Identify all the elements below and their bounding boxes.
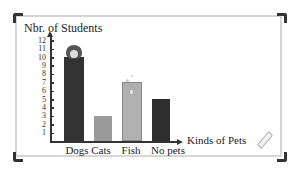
y-tick-label: 6	[32, 87, 46, 95]
bar-cats	[94, 116, 112, 141]
y-tick-label: 12	[32, 37, 46, 45]
y-axis	[50, 34, 52, 142]
x-tick-label: Fish	[111, 144, 151, 156]
y-tick	[50, 82, 54, 84]
y-tick	[50, 65, 54, 67]
y-tick	[50, 49, 54, 51]
bar-dogs	[64, 57, 84, 141]
bubble-icon	[126, 79, 129, 82]
fish-icon	[130, 90, 133, 94]
y-tick	[50, 91, 54, 93]
x-axis	[50, 141, 178, 143]
y-tick-label: 11	[32, 45, 46, 53]
x-tick-label: No pets	[148, 144, 188, 156]
y-tick-label: 7	[32, 79, 46, 87]
y-axis-title: Nbr. of Students	[24, 21, 102, 36]
y-tick	[50, 133, 54, 135]
y-tick	[50, 40, 54, 42]
y-tick	[50, 74, 54, 76]
dog-face-icon	[70, 50, 78, 58]
y-tick	[50, 124, 54, 126]
y-tick-label: 8	[32, 70, 46, 78]
frame-corner	[13, 152, 23, 162]
y-tick-label: 9	[32, 62, 46, 70]
y-tick-label: 2	[32, 121, 46, 129]
y-tick-label: 10	[32, 54, 46, 62]
bubble-icon	[131, 75, 133, 77]
x-axis-title: Kinds of Pets	[187, 134, 246, 146]
y-tick	[50, 57, 54, 59]
bar-no-pets	[152, 99, 170, 141]
y-tick-label: 4	[32, 104, 46, 112]
y-tick	[50, 99, 54, 101]
y-tick-label: 1	[32, 129, 46, 137]
y-tick	[50, 107, 54, 109]
y-tick-label: 5	[32, 96, 46, 104]
y-tick	[50, 116, 54, 118]
frame-corner	[277, 13, 287, 23]
frame-corner	[13, 13, 23, 23]
frame-corner	[277, 152, 287, 162]
y-tick-label: 3	[32, 112, 46, 120]
